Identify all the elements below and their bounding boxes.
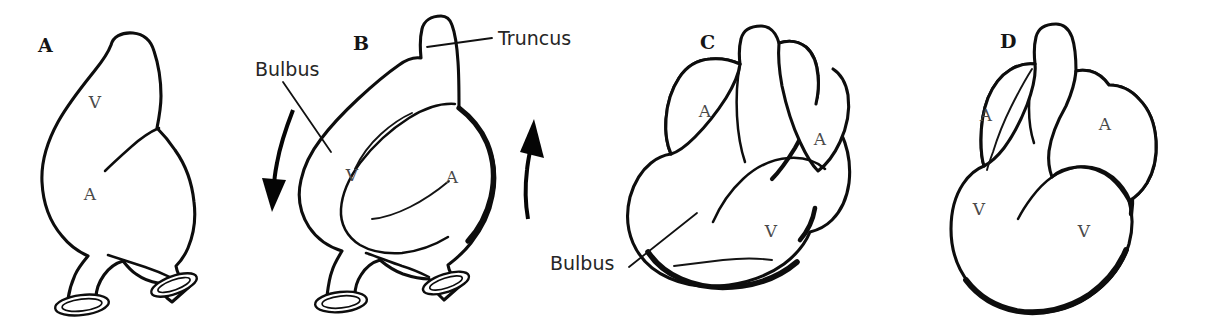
panel-d-letter: D [1000,30,1016,52]
panel-a-atrium-label: A [83,184,97,204]
panel-a-ventricle-label: V [88,92,102,112]
left-rotation-arrow [262,110,293,212]
panel-a-heart-tube-outline [42,33,195,305]
right-rotation-arrow [520,119,544,219]
panel-b-atrium-label: A [445,167,459,187]
panel-b-left-vessel-opening [314,289,368,314]
panel-b-group: B V A Bulbus Truncus [255,16,571,315]
panel-a-left-vessel-opening [54,292,110,318]
panel-b-letter: B [353,32,369,54]
panel-c-ventricle-label: V [764,221,778,241]
panel-a-group: A V A [37,33,200,318]
panel-d-left-atrium-label: A [979,105,993,125]
panel-d-right-atrium-label: A [1098,114,1112,134]
panel-b-heart-loop-outline [299,16,494,302]
panel-c-right-atrium-label: A [813,129,827,149]
panel-d-group: D A A V V [951,24,1156,313]
truncus-callout: Truncus [497,27,571,49]
bulbus-callout-c: Bulbus [550,252,614,274]
panel-c-group: C A A V Bulbus [550,26,850,287]
bulbus-callout-b: Bulbus [255,58,319,80]
panel-c-letter: C [700,31,715,53]
panel-b-ventricle-label: V [345,165,359,185]
panel-d-left-ventricle-label: V [972,199,986,219]
panel-c-left-atrium-label: A [698,101,712,121]
panel-a-letter: A [37,34,53,56]
figure-canvas: A V A [0,0,1205,327]
panel-d-right-ventricle-label: V [1077,221,1091,241]
heart-looping-figure: A V A [0,0,1205,327]
